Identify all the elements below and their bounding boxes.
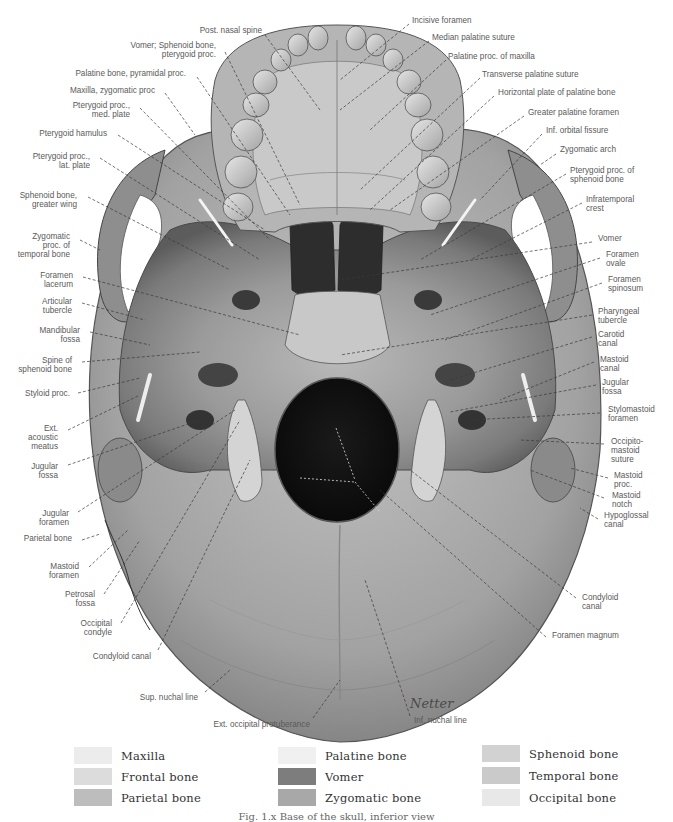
- maxillary-dental-arch: [200, 25, 475, 245]
- legend-swatch: [482, 767, 520, 784]
- label-parietal-bone: Parietal bone: [24, 534, 72, 543]
- label-occipito-mastoid-suture: Occipito- mastoid suture: [611, 437, 643, 465]
- leader-line: [82, 534, 100, 540]
- label-mandibular-fossa: Mandibular fossa: [39, 326, 80, 344]
- label-post-nasal-spine: Post. nasal spine: [200, 26, 262, 35]
- legend-label: Frontal bone: [121, 770, 199, 784]
- label-condyloid-canal: Condyloid canal: [93, 652, 151, 661]
- legend-swatch: [278, 789, 316, 806]
- label-foramen-lacerum: Foramen lacerum: [40, 271, 73, 289]
- label-mastoid-proc: Mastoid proc.: [614, 471, 643, 489]
- label-inf-orbital-fissure: Inf. orbital fissure: [546, 126, 608, 135]
- label-median-palatine-suture: Median palatine suture: [432, 33, 515, 42]
- label-spine-of-sphenoid-bone: Spine of sphenoid bone: [18, 356, 72, 374]
- label-jugular-fossa: Jugular fossa: [602, 378, 629, 396]
- label-jugular-fossa: Jugular fossa: [31, 462, 58, 480]
- label-hypoglossal-canal: Hypoglossal canal: [604, 511, 649, 529]
- label-palatine-proc-of-maxilla: Palatine proc. of maxilla: [448, 52, 535, 61]
- figure-caption: Fig. 1.x Base of the skull, inferior vie…: [0, 811, 673, 822]
- legend-item-occipital-bone: Occipital bone: [482, 788, 616, 807]
- legend-label: Vomer: [325, 770, 363, 784]
- label-zygomatic-arch: Zygomatic arch: [560, 145, 616, 154]
- label-zygomatic-proc-of-temporal-bone: Zygomatic proc. of temporal bone: [18, 232, 70, 260]
- legend-label: Sphenoid bone: [529, 747, 619, 761]
- leader-line: [165, 93, 195, 135]
- label-occipital-condyle: Occipital condyle: [81, 619, 112, 637]
- label-pterygoid-hamulus: Pterygoid hamulus: [39, 129, 107, 138]
- label-ext-occipital-protuberance: Ext. occipital protuberance: [214, 720, 310, 729]
- legend-item-parietal-bone: Parietal bone: [74, 788, 201, 807]
- label-pterygoid-proc-of-sphenoid-bone: Pterygoid proc. of sphenoid bone: [570, 166, 634, 184]
- label-carotid-canal: Carotid canal: [598, 330, 624, 348]
- label-vomer: Vomer: [598, 234, 622, 243]
- label-sup-nuchal-line: Sup. nuchal line: [140, 693, 198, 702]
- label-condyloid-canal: Condyloid canal: [582, 593, 618, 611]
- label-transverse-palatine-suture: Transverse palatine suture: [482, 70, 579, 79]
- legend-item-vomer: Vomer: [278, 767, 363, 786]
- legend-item-sphenoid-bone: Sphenoid bone: [482, 744, 619, 763]
- legend-swatch: [482, 789, 520, 806]
- label-mastoid-foramen: Mastoid foramen: [49, 562, 79, 580]
- label-ext-acoustic-meatus: Ext. acoustic meatus: [28, 424, 58, 452]
- legend-item-frontal-bone: Frontal bone: [74, 767, 199, 786]
- legend-label: Temporal bone: [529, 769, 619, 783]
- label-stylomastoid-foramen: Stylomastoid foramen: [608, 405, 655, 423]
- legend-item-temporal-bone: Temporal bone: [482, 766, 619, 785]
- label-foramen-ovale: Foramen ovale: [606, 250, 639, 268]
- foramen-magnum-shape: [275, 378, 399, 522]
- label-maxilla-zygomatic-proc: Maxilla, zygomatic proc: [70, 86, 155, 95]
- legend-label: Occipital bone: [529, 791, 616, 805]
- label-styloid-proc: Styloid proc.: [25, 389, 70, 398]
- legend-label: Palatine bone: [325, 749, 407, 763]
- legend-label: Zygomatic bone: [325, 791, 421, 805]
- label-mastoid-canal: Mastoid canal: [600, 355, 629, 373]
- label-horizontal-plate-of-palatine-bone: Horizontal plate of palatine bone: [498, 88, 615, 97]
- legend-label: Maxilla: [121, 749, 165, 763]
- legend-swatch: [278, 768, 316, 785]
- label-jugular-foramen: Jugular foramen: [39, 509, 69, 527]
- label-pharyngeal-tubercle: Pharyngeal tubercle: [598, 307, 639, 325]
- legend-swatch: [74, 768, 112, 785]
- label-articular-tubercle: Articular tubercle: [42, 297, 72, 315]
- leader-line: [80, 240, 100, 250]
- label-petrosal-fossa: Petrosal fossa: [65, 590, 95, 608]
- label-foramen-magnum: Foramen magnum: [552, 631, 619, 640]
- label-infratemporal-crest: Infratemporal crest: [586, 195, 634, 213]
- artist-signature: Netter: [409, 696, 454, 711]
- leader-line: [540, 154, 556, 165]
- legend-swatch: [74, 789, 112, 806]
- label-sphenoid-bone-greater-wing: Sphenoid bone, greater wing: [20, 191, 77, 209]
- label-incisive-foramen: Incisive foramen: [412, 16, 472, 25]
- label-inf-nuchal-line: Inf. nuchal line: [414, 716, 467, 725]
- legend-swatch: [74, 747, 112, 764]
- legend-label: Parietal bone: [121, 791, 201, 805]
- label-foramen-spinosum: Foramen spinosum: [608, 275, 643, 293]
- legend-item-zygomatic-bone: Zygomatic bone: [278, 788, 421, 807]
- label-greater-palatine-foramen: Greater palatine foramen: [528, 108, 619, 117]
- legend-swatch: [278, 747, 316, 764]
- label-vomer-sphenoid-bone-pterygoid-proc: Vomer; Sphenoid bone, pterygoid proc.: [130, 41, 216, 59]
- legend-item-maxilla: Maxilla: [74, 746, 165, 765]
- label-pterygoid-proc-med-plate: Pterygoid proc., med. plate: [73, 101, 130, 119]
- legend-swatch: [482, 745, 520, 762]
- label-pterygoid-proc-lat-plate: Pterygoid proc., lat. plate: [33, 152, 90, 170]
- legend-item-palatine-bone: Palatine bone: [278, 746, 407, 765]
- label-mastoid-notch: Mastoid notch: [612, 491, 641, 509]
- label-palatine-bone-pyramidal-proc: Palatine bone, pyramidal proc.: [75, 69, 186, 78]
